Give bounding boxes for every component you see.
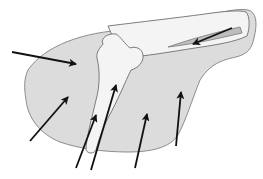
anatomical-figure bbox=[0, 0, 263, 179]
diagram-canvas bbox=[0, 0, 263, 179]
